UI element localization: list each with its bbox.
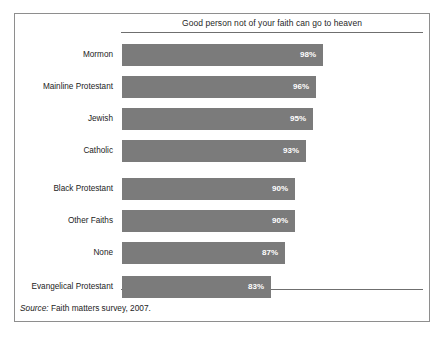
bar-value-label: 96% [293, 76, 309, 98]
category-label: Other Faiths [15, 210, 113, 232]
bar-row: Jewish95% [15, 108, 431, 130]
bar-track: 90% [122, 210, 295, 232]
bar-row: Catholic93% [15, 140, 431, 162]
category-label: Catholic [15, 140, 113, 162]
source-text: Faith matters survey, 2007. [49, 303, 151, 313]
bar-value-label: 93% [283, 140, 299, 162]
bar-fill: 87% [122, 242, 285, 264]
bar-track: 93% [122, 140, 306, 162]
source-label: Source: [20, 303, 49, 313]
bar-value-label: 90% [272, 210, 288, 232]
chart-figure: Good person not of your faith can go to … [14, 13, 430, 322]
category-label: Black Protestant [15, 178, 113, 200]
bar-track: 95% [122, 108, 313, 130]
bar-row: None87% [15, 242, 431, 264]
bar-row: Evangelical Protestant83% [15, 276, 431, 298]
category-label: Jewish [15, 108, 113, 130]
bar-track: 90% [122, 178, 295, 200]
bar-track: 98% [122, 44, 323, 66]
bar-row: Black Protestant90% [15, 178, 431, 200]
bar-fill: 83% [122, 276, 271, 298]
bar-value-label: 98% [300, 44, 316, 66]
bar-fill: 90% [122, 210, 295, 232]
bar-value-label: 95% [290, 108, 306, 130]
bar-fill: 96% [122, 76, 316, 98]
bar-fill: 95% [122, 108, 313, 130]
category-label: None [15, 242, 113, 264]
bar-value-label: 87% [262, 242, 278, 264]
source-note: Source: Faith matters survey, 2007. [20, 303, 151, 313]
bar-fill: 93% [122, 140, 306, 162]
bar-fill: 90% [122, 178, 295, 200]
category-label: Mormon [15, 44, 113, 66]
chart-title: Good person not of your faith can go to … [121, 18, 423, 28]
bar-track: 83% [122, 276, 271, 298]
bar-row: Other Faiths90% [15, 210, 431, 232]
bar-value-label: 90% [272, 178, 288, 200]
bar-row: Mainline Protestant96% [15, 76, 431, 98]
bar-track: 87% [122, 242, 285, 264]
bar-track: 96% [122, 76, 316, 98]
bar-value-label: 83% [248, 276, 264, 298]
category-label: Mainline Protestant [15, 76, 113, 98]
category-label: Evangelical Protestant [15, 276, 113, 298]
bar-fill: 98% [122, 44, 323, 66]
bar-row: Mormon98% [15, 44, 431, 66]
